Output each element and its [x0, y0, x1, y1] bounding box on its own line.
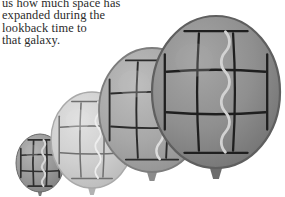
figure-page: us how much space has expanded during th…	[0, 0, 285, 197]
balloon-highlight-2	[66, 109, 91, 130]
balloon-body-4	[152, 16, 280, 168]
balloon-highlight-3	[118, 70, 150, 97]
balloon-layer	[16, 16, 280, 196]
balloon-illustration	[0, 0, 285, 197]
balloon-highlight-1	[25, 144, 39, 157]
balloon-highlight-4	[175, 43, 213, 76]
balloon-figure	[0, 0, 285, 197]
